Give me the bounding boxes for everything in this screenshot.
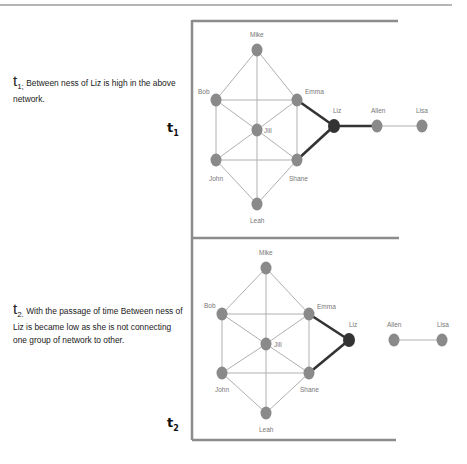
label-mike-t2: Mike [259,249,273,256]
label-shane-t1: Shane [289,175,308,182]
label-lisa-t2: Lisa [437,321,449,328]
network-diagram: Mike Bob Emma Jill John Shane Leah Liz A… [0,0,467,464]
network-t1-nodes [211,44,428,211]
label-john-t2: John [215,386,229,393]
node-john-t2 [217,367,228,380]
node-liz-t1 [328,119,340,133]
network-t2-liz-edges [309,314,349,373]
network-t2-labels: Mike Bob Emma Jill John Shane Leah Liz A… [204,249,449,433]
node-lisa-t1 [417,120,428,133]
node-emma-t2 [304,308,315,321]
label-liz-t1: Liz [333,107,341,114]
node-bob-t1 [211,94,222,107]
label-liz-t2: Liz [349,321,357,328]
label-allen-t2: Allen [387,321,402,328]
network-t2: Mike Bob Emma Jill John Shane Leah Liz A… [204,249,449,433]
label-john-t1: John [209,175,223,182]
node-mike-t1 [252,44,263,57]
node-shane-t2 [304,367,315,380]
node-leah-t1 [252,198,263,211]
label-leah-t1: Leah [250,217,265,224]
label-shane-t2: Shane [300,386,319,393]
node-mike-t2 [261,262,272,275]
network-t1-edges [216,50,422,204]
node-john-t1 [211,154,222,167]
label-mike-t1: Mike [250,31,264,38]
label-lisa-t1: Lisa [416,107,428,114]
network-t1: Mike Bob Emma Jill John Shane Leah Liz A… [198,31,428,224]
node-liz-t2 [343,333,355,347]
node-jill-t2 [261,338,272,351]
node-allen-t1 [372,120,383,133]
network-t2-edges [222,268,442,413]
network-t1-labels: Mike Bob Emma Jill John Shane Leah Liz A… [198,31,428,224]
label-leah-t2: Leah [259,426,274,433]
node-emma-t1 [292,94,303,107]
label-emma-t1: Emma [305,88,324,95]
node-bob-t2 [217,308,228,321]
node-leah-t2 [261,407,272,420]
label-jill-t1: Jill [264,127,272,134]
label-allen-t1: Allen [371,107,386,114]
node-shane-t1 [292,154,303,167]
label-emma-t2: Emma [317,303,336,310]
label-bob-t2: Bob [204,302,216,309]
node-lisa-t2 [437,334,448,347]
node-allen-t2 [389,334,400,347]
label-bob-t1: Bob [198,88,210,95]
node-jill-t1 [252,124,263,137]
label-jill-t2: Jill [274,341,282,348]
